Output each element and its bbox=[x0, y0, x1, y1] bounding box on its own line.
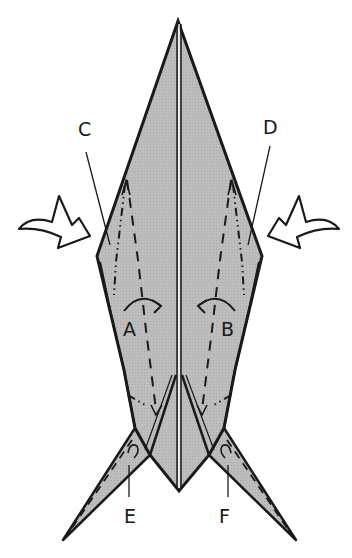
label-b: B bbox=[221, 320, 234, 339]
origami-body bbox=[97, 21, 262, 491]
label-a: A bbox=[123, 320, 136, 339]
label-d: D bbox=[263, 118, 278, 137]
left-leg bbox=[63, 428, 150, 540]
push-arrow-right-icon bbox=[268, 196, 339, 248]
label-c: C bbox=[78, 120, 91, 139]
push-arrow-left-icon bbox=[19, 196, 90, 248]
origami-diagram bbox=[0, 0, 352, 558]
label-f: F bbox=[219, 507, 230, 526]
label-e: E bbox=[124, 507, 136, 526]
